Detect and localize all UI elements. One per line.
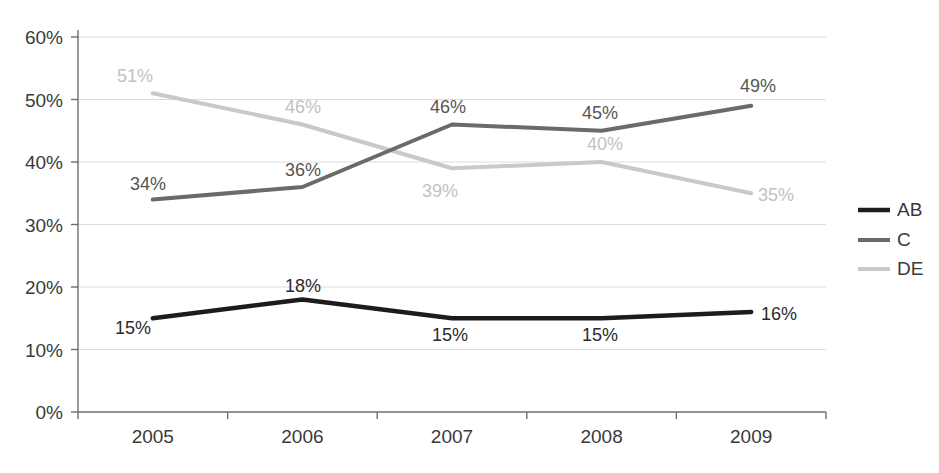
series-line-ab — [153, 300, 751, 319]
data-label: 46% — [430, 97, 466, 117]
x-axis-label: 2005 — [132, 426, 174, 447]
data-label: 34% — [130, 174, 166, 194]
data-label: 18% — [285, 276, 321, 296]
data-labels-de: 51% 46% 39% 40% 35% — [117, 66, 794, 205]
y-axis-label: 30% — [25, 215, 63, 236]
y-axis-label: 60% — [25, 27, 63, 48]
y-axis-label: 10% — [25, 340, 63, 361]
legend-item-de[interactable]: DE — [858, 258, 923, 279]
x-axis-label: 2007 — [431, 426, 473, 447]
legend-label: C — [897, 229, 911, 250]
x-axis-label: 2006 — [281, 426, 323, 447]
y-axis-labels: 60% 50% 40% 30% 20% 10% 0% — [25, 27, 63, 423]
legend-item-c[interactable]: C — [858, 229, 911, 250]
y-axis-label: 40% — [25, 152, 63, 173]
data-label: 36% — [285, 160, 321, 180]
data-label: 45% — [582, 103, 618, 123]
legend-item-ab[interactable]: AB — [858, 199, 922, 220]
data-label: 15% — [115, 318, 151, 338]
data-label: 15% — [582, 325, 618, 345]
x-axis-label: 2009 — [730, 426, 772, 447]
legend-label: AB — [897, 199, 922, 220]
data-label: 40% — [587, 134, 623, 154]
data-label: 35% — [758, 185, 794, 205]
data-label: 49% — [740, 76, 776, 96]
legend-label: DE — [897, 258, 923, 279]
x-axis-label: 2008 — [580, 426, 622, 447]
chart-svg: 60% 50% 40% 30% 20% 10% 0% 2005 2006 200… — [0, 0, 939, 473]
x-axis-labels: 2005 2006 2007 2008 2009 — [132, 426, 773, 447]
y-axis-label: 0% — [36, 402, 64, 423]
line-chart: 60% 50% 40% 30% 20% 10% 0% 2005 2006 200… — [0, 0, 939, 473]
y-axis-label: 50% — [25, 90, 63, 111]
data-label: 51% — [117, 66, 153, 86]
y-axis-label: 20% — [25, 277, 63, 298]
data-label: 46% — [285, 97, 321, 117]
chart-legend: AB C DE — [858, 199, 923, 279]
data-label: 15% — [432, 325, 468, 345]
data-label: 16% — [761, 304, 797, 324]
data-label: 39% — [422, 181, 458, 201]
